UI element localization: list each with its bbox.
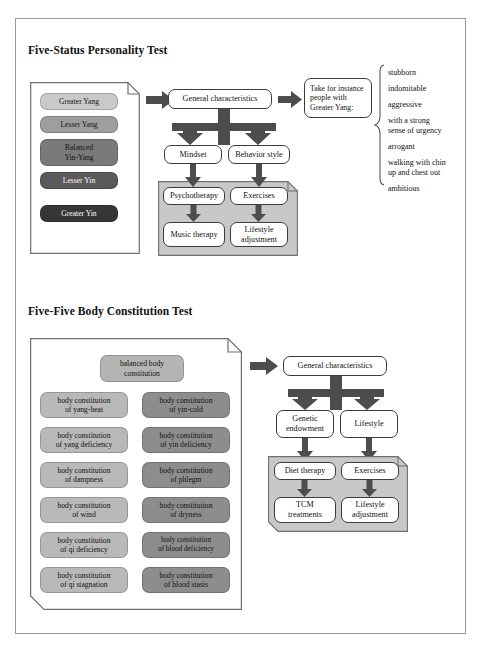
trait-stubborn: stubborn bbox=[388, 68, 416, 78]
trait-indomitable: indomitable bbox=[388, 84, 426, 94]
node-exercises-1[interactable]: Exercises bbox=[230, 187, 288, 205]
section-title-personality: Five-Status Personality Test bbox=[28, 44, 168, 56]
section-title-constitution: Five-Five Body Constitution Test bbox=[28, 305, 193, 317]
chip-balanced-body-constitution[interactable]: balanced body constitution bbox=[100, 355, 184, 382]
chip-constitution-phlegm[interactable]: body constitution of phlegm bbox=[142, 462, 230, 488]
splitter-general-to-branches-1 bbox=[172, 109, 276, 145]
arrow-exercises-to-lifestyle-2 bbox=[362, 480, 377, 497]
trait-arrogant: arrogant bbox=[388, 142, 415, 152]
chip-constitution-qi-stagnation[interactable]: body constitution of qi stagnation bbox=[40, 567, 128, 593]
chip-constitution-yang-deficiency[interactable]: body constitution of yang deficiency bbox=[40, 427, 128, 453]
chip-constitution-dampness[interactable]: body constitution of dampness bbox=[40, 462, 128, 488]
trait-ambitious: ambitious bbox=[388, 184, 420, 194]
traits-brace bbox=[374, 64, 386, 186]
node-lifestyle-adjustment-2[interactable]: Lifestyle adjustment bbox=[341, 497, 399, 523]
status-chip-greater-yang[interactable]: Greater Yang bbox=[40, 93, 118, 110]
node-exercises-2[interactable]: Exercises bbox=[341, 462, 399, 480]
chip-constitution-yin-deficiency[interactable]: body constitution of yin deficiency bbox=[142, 427, 230, 453]
node-genetic-endowment[interactable]: Genetic endowment bbox=[276, 410, 334, 438]
node-general-characteristics-2[interactable]: General characteristics bbox=[283, 356, 387, 376]
node-mindset[interactable]: Mindset bbox=[164, 145, 222, 164]
node-psychotherapy[interactable]: Psychotherapy bbox=[163, 187, 225, 205]
status-chip-lesser-yin[interactable]: Lesser Yin bbox=[40, 172, 118, 189]
chip-constitution-blood-deficiency[interactable]: body constitution of blood deficiency bbox=[142, 532, 230, 558]
chip-constitution-blood-stasis[interactable]: body constitution of blood stasis bbox=[142, 567, 230, 593]
arrow-exercises-to-lifestyle-1 bbox=[251, 205, 266, 222]
node-music-therapy[interactable]: Music therapy bbox=[163, 222, 225, 247]
trait-posture: walking with chin up and chest out bbox=[388, 158, 446, 178]
status-chip-lesser-yang[interactable]: Lesser Yang bbox=[40, 116, 118, 133]
chip-constitution-dryness[interactable]: body constitution of dryness bbox=[142, 497, 230, 523]
chip-constitution-wind[interactable]: body constitution of wind bbox=[40, 497, 128, 523]
chip-constitution-yang-heat[interactable]: body constitution of yang-heat bbox=[40, 392, 128, 418]
status-chip-greater-yin[interactable]: Greater Yin bbox=[40, 205, 118, 222]
node-behavior-style[interactable]: Behavior style bbox=[228, 145, 290, 164]
arrow-mindset-to-psychotherapy bbox=[185, 164, 201, 187]
arrow-diet-to-tcm bbox=[297, 480, 312, 497]
trait-urgency: with a strong sense of urgency bbox=[388, 116, 442, 136]
status-chip-balanced-yin-yang[interactable]: Balanced Yin-Yang bbox=[40, 139, 118, 166]
node-tcm-treatments[interactable]: TCM treatments bbox=[274, 497, 336, 523]
chip-constitution-yin-cold[interactable]: body constitution of yin-cold bbox=[142, 392, 230, 418]
arrow-general-to-example bbox=[278, 91, 302, 108]
arrow-psychotherapy-to-music bbox=[186, 205, 201, 222]
chip-constitution-qi-deficiency[interactable]: body constitution of qi deficiency bbox=[40, 532, 128, 558]
arrow-behavior-to-exercises bbox=[251, 164, 267, 187]
node-example-prompt[interactable]: Take for instance people with Greater Ya… bbox=[304, 78, 372, 118]
node-general-characteristics-1[interactable]: General characteristics bbox=[168, 89, 272, 109]
node-diet-therapy[interactable]: Diet therapy bbox=[274, 462, 336, 480]
splitter-general-to-branches-2 bbox=[288, 376, 384, 410]
node-lifestyle[interactable]: Lifestyle bbox=[340, 410, 398, 438]
trait-aggressive: aggressive bbox=[388, 100, 422, 110]
node-lifestyle-adjustment-1[interactable]: Lifestyle adjustment bbox=[230, 222, 288, 247]
arrow-constitutions-to-general bbox=[250, 357, 278, 375]
